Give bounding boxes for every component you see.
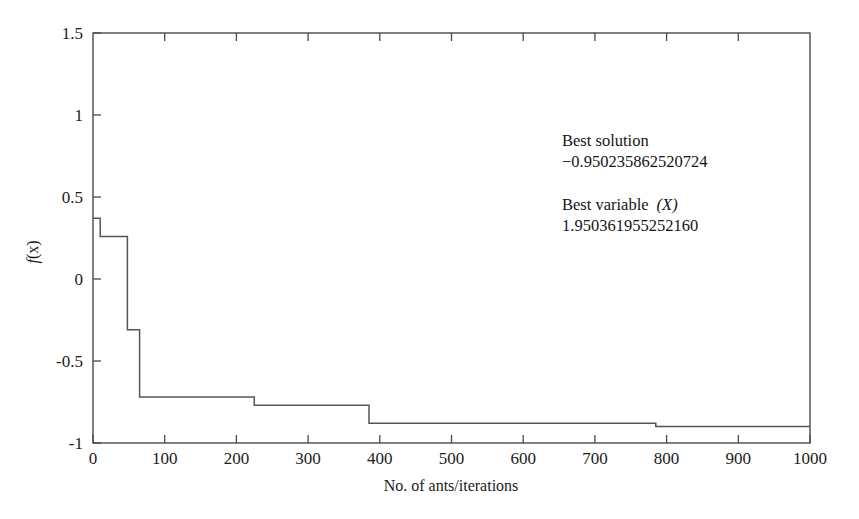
x-tick-label: 300	[295, 449, 321, 468]
y-tick-label: -1	[69, 434, 83, 453]
annotation-block: Best solution −0.950235862520724 Best va…	[562, 131, 707, 235]
x-axis-ticks	[93, 33, 810, 443]
y-tick-label: 1.5	[62, 24, 83, 43]
x-tick-label: 500	[439, 449, 465, 468]
x-tick-label: 0	[89, 449, 98, 468]
convergence-step-line	[93, 218, 810, 426]
x-tick-label: 900	[726, 449, 752, 468]
x-tick-label: 200	[224, 449, 250, 468]
y-axis-title: f(x)	[24, 240, 42, 263]
svg-text:f(x): f(x)	[24, 240, 42, 263]
x-tick-label: 400	[367, 449, 393, 468]
y-tick-label: 1	[75, 106, 84, 125]
x-tick-label: 100	[152, 449, 178, 468]
y-axis-title-paren: (x)	[24, 240, 42, 259]
convergence-plot: 0 100 200 300 400 500 600 700 800 900 10…	[0, 0, 859, 519]
chart-figure: 0 100 200 300 400 500 600 700 800 900 10…	[0, 0, 859, 519]
best-variable-value: 1.950361955252160	[562, 216, 698, 235]
y-tick-label: 0	[75, 270, 84, 289]
x-tick-labels: 0 100 200 300 400 500 600 700 800 900 10…	[89, 449, 827, 468]
x-axis-title: No. of ants/iterations	[384, 477, 519, 494]
best-solution-value: −0.950235862520724	[562, 152, 707, 171]
x-tick-label: 1000	[793, 449, 827, 468]
best-variable-label-text: Best variable	[562, 195, 649, 214]
best-solution-label: Best solution	[562, 131, 649, 150]
x-tick-label: 700	[582, 449, 608, 468]
y-tick-labels: -1 -0.5 0 0.5 1 1.5	[56, 24, 83, 453]
x-tick-label: 800	[654, 449, 680, 468]
x-tick-label: 600	[510, 449, 536, 468]
plot-frame	[93, 33, 810, 443]
best-variable-label: Best variable(X)	[562, 195, 678, 214]
y-axis-ticks	[93, 33, 101, 443]
y-tick-label: 0.5	[62, 188, 83, 207]
best-variable-symbol: (X)	[657, 195, 678, 214]
y-tick-label: -0.5	[56, 352, 83, 371]
